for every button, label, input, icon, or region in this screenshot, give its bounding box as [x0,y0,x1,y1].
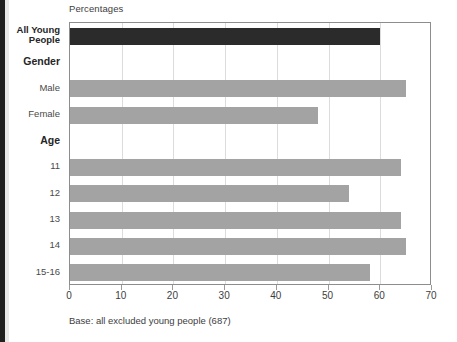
x-axis-title: Percentages [69,3,123,14]
category-label: 12 [49,188,60,199]
group-header-label: Gender [23,56,60,67]
category-label: 15-16 [36,267,60,278]
plot-area [69,22,431,285]
x-axis-tick-label: 40 [270,290,281,301]
bar [70,212,401,229]
bar [70,238,406,255]
x-axis-tick-label: 70 [425,290,436,301]
x-axis-tick-label: 60 [374,290,385,301]
x-axis-tick-label: 0 [66,290,72,301]
x-axis-tick-labels: 010203040506070 [69,290,431,306]
category-label: Female [28,109,60,120]
category-label: 14 [49,240,60,251]
bar-chart: Percentages All Young PeopleGenderMaleFe… [0,0,457,342]
x-axis-tick-label: 20 [167,290,178,301]
bar [70,159,401,176]
category-axis-labels: All Young PeopleGenderMaleFemaleAge11121… [0,22,65,285]
bar [70,264,370,281]
bar [70,80,406,97]
bar [70,185,349,202]
category-label: 13 [49,214,60,225]
group-header-label: Age [40,135,60,146]
category-label: All Young People [17,25,60,46]
category-label: Male [39,83,60,94]
category-label: 11 [50,161,60,172]
bar [70,107,318,124]
bar [70,28,380,45]
x-axis-tick-label: 30 [219,290,230,301]
base-note: Base: all excluded young people (687) [69,315,231,326]
x-axis-tick-label: 50 [322,290,333,301]
bars-layer [70,23,430,284]
x-axis-tick-label: 10 [115,290,126,301]
